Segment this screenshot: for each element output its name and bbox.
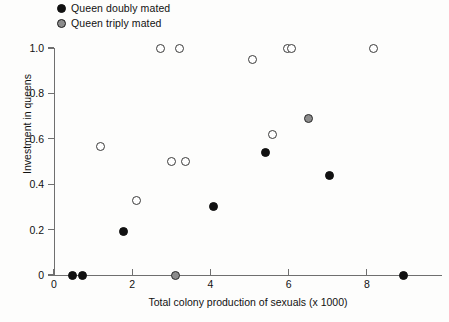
data-point: [175, 44, 184, 53]
x-axis-tick-label: 2: [117, 279, 147, 289]
x-axis-tick-label: 4: [195, 279, 225, 289]
gray-circle-icon: [57, 19, 66, 28]
data-point: [261, 148, 270, 157]
y-axis-tick-label: 0: [0, 270, 44, 280]
data-point: [132, 196, 141, 205]
data-point: [287, 44, 296, 53]
y-axis-tick: [48, 47, 54, 48]
data-point: [68, 271, 77, 280]
x-axis-tick: [53, 269, 54, 275]
data-point: [399, 271, 408, 280]
x-axis-tick: [366, 269, 367, 275]
y-axis-line: [54, 48, 55, 276]
data-point: [167, 157, 176, 166]
x-axis-tick-label: 0: [39, 279, 69, 289]
data-point: [248, 55, 257, 64]
data-point: [119, 227, 128, 236]
data-point: [78, 271, 87, 280]
filled-circle-icon: [57, 4, 66, 13]
data-point: [304, 114, 313, 123]
x-axis-label: Total colony production of sexuals (x 10…: [54, 296, 442, 308]
data-point: [171, 271, 180, 280]
data-point: [96, 142, 105, 151]
x-axis-tick-label: 6: [274, 279, 304, 289]
scatter-chart-figure: Queen doubly mated Queen triply mated 00…: [0, 0, 449, 322]
y-axis-tick: [48, 93, 54, 94]
y-axis-label: Investment in queens: [21, 39, 33, 209]
y-axis-tick: [48, 138, 54, 139]
chart-legend: Queen doubly mated Queen triply mated: [57, 2, 170, 32]
y-axis-tick: [48, 229, 54, 230]
data-point: [325, 171, 334, 180]
x-axis-tick: [132, 269, 133, 275]
legend-item-label: Queen triply mated: [71, 18, 162, 29]
data-point: [181, 157, 190, 166]
data-point: [268, 130, 277, 139]
x-axis-tick-label: 8: [352, 279, 382, 289]
data-point: [369, 44, 378, 53]
x-axis-tick: [288, 269, 289, 275]
x-axis-line: [54, 275, 442, 276]
legend-item-label: Queen doubly mated: [71, 3, 170, 14]
y-axis-tick: [48, 184, 54, 185]
data-point: [209, 202, 218, 211]
legend-item-queen-doubly-mated: Queen doubly mated: [57, 2, 170, 15]
legend-item-queen-triply-mated: Queen triply mated: [57, 17, 170, 30]
x-axis-tick: [210, 269, 211, 275]
y-axis-tick-label: 0.2: [0, 225, 44, 235]
data-point: [156, 44, 165, 53]
